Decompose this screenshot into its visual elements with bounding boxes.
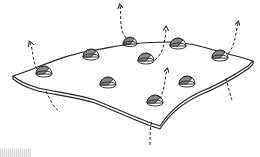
arrow-5 — [160, 70, 167, 99]
dome-5 — [138, 53, 154, 64]
dome-1 — [36, 66, 52, 77]
sheet-bottom-edge-left — [13, 76, 160, 129]
dome-6 — [212, 50, 228, 61]
dome-2 — [83, 49, 99, 60]
dome-7 — [100, 77, 116, 88]
dome-8 — [179, 76, 195, 87]
arrow-2 — [120, 6, 126, 38]
arrow-4 — [228, 23, 238, 54]
surface-diagram — [0, 0, 260, 157]
dome-4 — [170, 38, 186, 49]
flow-arrows — [30, 6, 238, 145]
arrow-3 — [155, 28, 166, 60]
watermark-strip — [0, 149, 31, 157]
arrow-1 — [30, 43, 37, 69]
